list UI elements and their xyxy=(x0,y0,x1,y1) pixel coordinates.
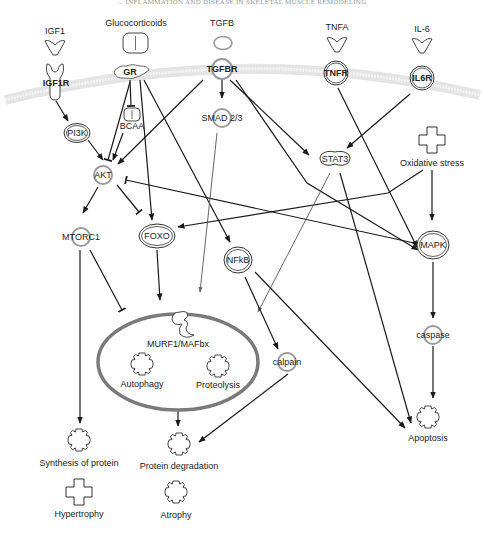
ligand-tnfa: TNFA xyxy=(325,22,348,52)
stat3-label: STAT3 xyxy=(322,154,349,164)
degradation-gear-icon xyxy=(168,433,190,455)
node-synthesis: Synthesis of protein xyxy=(39,429,118,468)
proteasome-complex: MURF1/MAFbx Autophagy Proteolysis xyxy=(98,312,258,411)
node-nfkb: NFkB xyxy=(224,247,252,273)
atrophy-label: Atrophy xyxy=(160,510,192,520)
hypertrophy-icon xyxy=(66,479,92,505)
ligand-igf1: IGF1 xyxy=(45,26,65,55)
node-degradation: Protein degradation xyxy=(140,433,219,471)
caspase-label: caspase xyxy=(416,330,450,340)
mapk-label: MAPK xyxy=(420,240,446,250)
receptor-tnfr: TNFR xyxy=(324,61,348,85)
autophagy-label: Autophagy xyxy=(120,379,164,389)
node-apoptosis: Apoptosis xyxy=(408,406,448,443)
tgfb-ligand-icon xyxy=(214,37,232,50)
node-smad: SMAD 2/3 xyxy=(201,109,242,127)
synthesis-gear-icon xyxy=(68,429,90,451)
oxidative-stress-label: Oxidative stress xyxy=(400,158,465,168)
node-oxidative-stress: Oxidative stress xyxy=(400,127,465,168)
receptor-tgfbr: TGFBR xyxy=(207,59,238,79)
calpain-label: calpain xyxy=(273,357,302,367)
proteolysis-label: Proteolysis xyxy=(196,380,241,390)
tgfb-label: TGFB xyxy=(210,18,234,28)
proteasome-ellipse xyxy=(98,314,258,410)
ligand-il6: IL-6 xyxy=(412,24,432,53)
synthesis-label: Synthesis of protein xyxy=(39,458,118,468)
gr-label: GR xyxy=(123,67,137,77)
node-pi3k: PI3K xyxy=(64,124,90,143)
node-mapk: MAPK xyxy=(417,231,449,259)
apoptosis-label: Apoptosis xyxy=(408,433,448,443)
nfkb-label: NFkB xyxy=(227,255,250,265)
node-mtorc1: MTORC1 xyxy=(62,228,100,246)
il6-label: IL-6 xyxy=(414,24,430,34)
foxo-label: FOXO xyxy=(144,231,170,241)
node-hypertrophy: Hypertrophy xyxy=(54,479,104,519)
node-foxo: FOXO xyxy=(139,224,175,248)
receptor-il6r: IL6R xyxy=(410,66,434,90)
node-calpain: calpain xyxy=(273,353,302,371)
atrophy-gear-icon xyxy=(165,481,187,503)
tnfa-ligand-icon xyxy=(327,38,347,53)
igf1-label: IGF1 xyxy=(45,26,65,36)
akt-label: AKT xyxy=(94,170,112,180)
smad-label: SMAD 2/3 xyxy=(201,113,242,123)
node-caspase: caspase xyxy=(416,326,450,344)
node-stat3: STAT3 xyxy=(320,151,350,165)
node-atrophy: Atrophy xyxy=(160,481,192,520)
igf1r-label: IGF1R xyxy=(43,78,70,88)
node-akt: AKT xyxy=(94,166,112,184)
mtorc1-label: MTORC1 xyxy=(62,232,100,242)
hypertrophy-label: Hypertrophy xyxy=(54,509,104,519)
ligand-glucocorticoids: Glucocorticoids xyxy=(105,18,167,53)
glucocorticoids-label: Glucocorticoids xyxy=(105,18,167,28)
ligand-tgfb: TGFB xyxy=(210,18,234,50)
node-bcaa: BCAA xyxy=(120,108,145,131)
signaling-pathway-diagram: ... INFLAMMATION AND DISEASE IN SKELETAL… xyxy=(0,0,485,534)
degradation-label: Protein degradation xyxy=(140,461,219,471)
apoptosis-gear-icon xyxy=(417,406,439,428)
bcaa-label: BCAA xyxy=(120,121,145,131)
tnfr-label: TNFR xyxy=(324,68,348,78)
tgfbr-label: TGFBR xyxy=(207,64,238,74)
igf1-ligand-icon xyxy=(45,41,65,56)
tnfa-label: TNFA xyxy=(325,22,348,32)
pi3k-label: PI3K xyxy=(67,128,87,138)
autophagy-gear-icon xyxy=(131,353,153,375)
page-header: ... INFLAMMATION AND DISEASE IN SKELETAL… xyxy=(117,0,366,6)
il6-ligand-icon xyxy=(412,39,432,54)
proteolysis-gear-icon xyxy=(207,355,229,377)
murf-label: MURF1/MAFbx xyxy=(147,339,210,349)
oxidative-stress-icon xyxy=(419,127,445,153)
il6r-label: IL6R xyxy=(412,73,432,83)
